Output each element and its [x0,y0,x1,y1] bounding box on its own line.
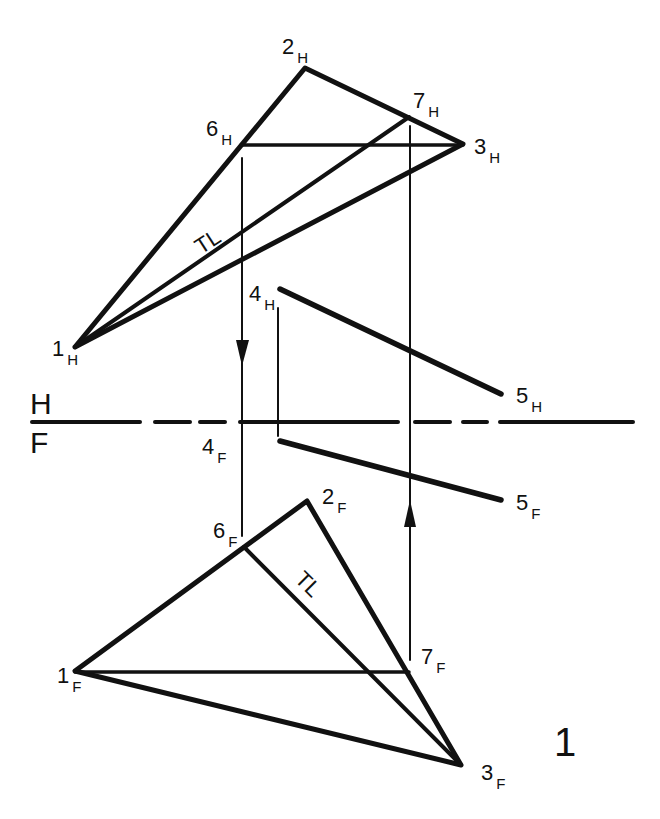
figure-number: 1 [554,720,576,765]
point-label-6f: 6F [213,520,237,542]
triangle-f-outline [75,501,461,765]
plane-label-h: H [30,389,52,419]
point-label-4h: 4H [249,283,275,305]
point-label-7h: 7H [413,90,439,112]
diagram-canvas [0,0,660,819]
point-label-5h: 5H [516,385,542,407]
plane-label-f: F [30,428,48,458]
point-label-3h: 3H [474,136,500,158]
point-label-7f: 7F [421,646,445,668]
point-label-1h: 1H [52,338,78,360]
point-label-6h: 6H [206,118,232,140]
line-4f-5f [280,441,501,500]
point-label-3f: 3F [481,762,505,784]
line-4h-5h [280,289,501,394]
point-label-5f: 5F [516,492,540,514]
point-label-2h: 2H [282,36,308,58]
point-label-1f: 1F [57,665,81,687]
arrow-up-icon [404,500,416,527]
point-label-4f: 4F [202,436,226,458]
arrow-down-icon [236,340,249,366]
point-label-2f: 2F [322,486,346,508]
